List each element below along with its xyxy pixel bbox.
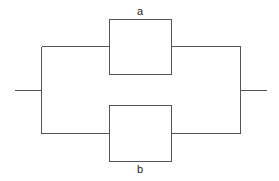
parallel-system-diagram: a b [0,0,279,181]
block-a: a [110,5,172,75]
block-b-label: b [137,163,143,175]
block-a-label: a [137,5,144,17]
block-a-box [110,20,172,75]
block-b: b [110,106,172,176]
block-b-box [110,106,172,162]
